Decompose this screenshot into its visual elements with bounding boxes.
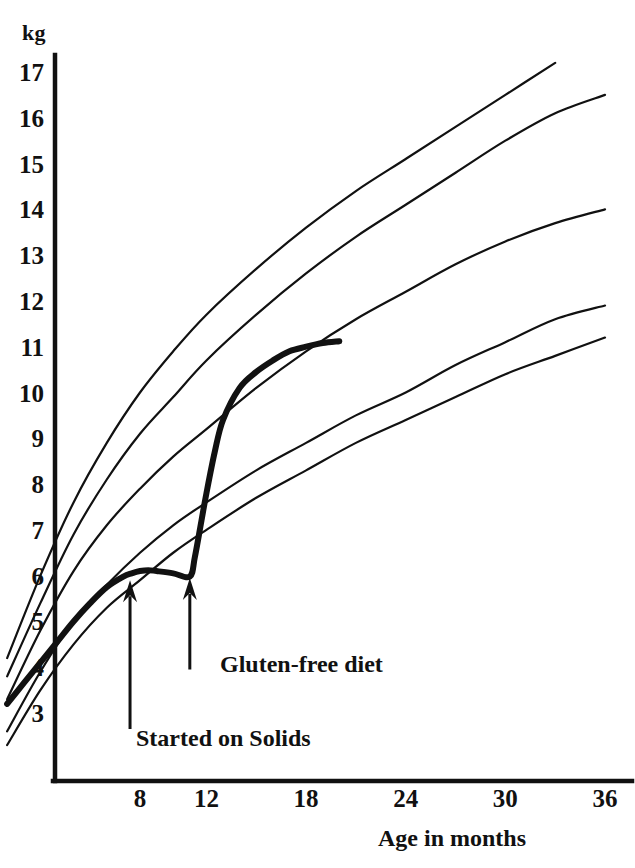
centile-curve-line [7,95,605,676]
y-axis-tick-15: 15 [2,152,44,177]
y-axis-tick-16: 16 [2,106,44,131]
growth-chart: kg 34567891011121314151617 81218243036 A… [0,0,635,868]
y-axis-tick-14: 14 [2,197,44,222]
centile-curve-line [7,209,605,699]
y-axis-tick-9: 9 [2,426,44,451]
x-axis-title: Age in months [312,826,592,850]
x-axis-tick-36: 36 [575,786,635,811]
y-axis-tick-4: 4 [2,655,44,680]
y-axis-tick-6: 6 [2,564,44,589]
y-axis-tick-7: 7 [2,518,44,543]
chart-canvas [0,0,635,868]
centile-curve-line [7,338,605,745]
y-axis-tick-11: 11 [2,335,44,360]
x-axis-tick-18: 18 [276,786,336,811]
annotation-label-started-on-solids: Started on Solids [136,726,311,750]
annotation-arrow-gluten-free-diet [183,578,197,670]
x-axis-tick-12: 12 [176,786,236,811]
x-axis-tick-30: 30 [475,786,535,811]
y-axis-tick-5: 5 [2,609,44,634]
centile-curve-line [7,63,555,658]
centile-curves-group [7,63,605,745]
y-axis-tick-17: 17 [2,60,44,85]
annotation-label-gluten-free-diet: Gluten-free diet [220,652,383,676]
annotation-arrows-group [123,578,197,729]
y-axis-tick-8: 8 [2,472,44,497]
y-axis-tick-3: 3 [2,701,44,726]
annotation-arrow-started-on-solids [123,580,137,729]
x-axis-tick-24: 24 [376,786,436,811]
y-axis-unit-label: kg [22,20,46,46]
x-axis-tick-8: 8 [110,786,170,811]
y-axis-tick-10: 10 [2,381,44,406]
y-axis-tick-13: 13 [2,243,44,268]
y-axis-tick-12: 12 [2,289,44,314]
